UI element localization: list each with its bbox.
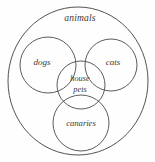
- set-label-house-pets-line1: house: [70, 74, 90, 83]
- set-label-house-pets-line2: pets: [72, 85, 86, 94]
- venn-diagram-svg: animals dogs cats house pets canaries: [0, 0, 155, 162]
- set-label-animals: animals: [64, 13, 96, 23]
- set-label-dogs: dogs: [33, 57, 51, 67]
- set-label-cats: cats: [106, 57, 121, 67]
- set-label-canaries: canaries: [66, 118, 96, 128]
- euler-diagram-canvas: animals dogs cats house pets canaries: [0, 0, 155, 162]
